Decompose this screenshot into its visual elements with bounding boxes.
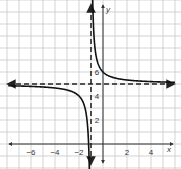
- rational-function-graph: −6−4−224 246 x y: [0, 0, 181, 169]
- y-axis-label: y: [105, 5, 111, 14]
- y-tick-label: 2: [95, 116, 100, 125]
- x-tick-label: −6: [26, 148, 36, 157]
- y-tick-label: 4: [95, 92, 100, 101]
- x-axis-label: x: [166, 145, 172, 154]
- y-tick-labels: 246: [95, 68, 100, 125]
- x-tick-label: 2: [125, 148, 130, 157]
- y-tick-label: 6: [95, 68, 100, 77]
- x-tick-label: −4: [50, 148, 60, 157]
- x-tick-label: 4: [149, 148, 154, 157]
- x-tick-label: −2: [74, 148, 84, 157]
